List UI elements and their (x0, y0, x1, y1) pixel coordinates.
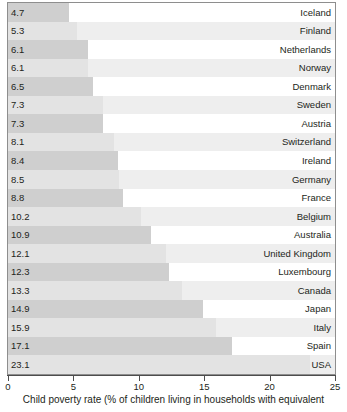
bar-germany (8, 170, 119, 189)
bar-category-label: Belgium (297, 212, 331, 222)
bar-value-label: 8.5 (11, 175, 24, 185)
bar-category-label: Japan (305, 304, 331, 314)
bar-category-label: Switzerland (282, 137, 331, 147)
bar-value-label: 15.9 (11, 323, 30, 333)
bar-france (8, 189, 123, 207)
x-tick-label: 20 (264, 382, 275, 392)
child-poverty-bar-chart: 4.7Iceland5.3Finland6.1Netherlands6.1Nor… (0, 0, 347, 412)
bar-category-label: Denmark (292, 82, 331, 92)
bar-value-label: 8.4 (11, 156, 24, 166)
bar-canada (8, 281, 182, 300)
x-tick-label: 10 (134, 382, 145, 392)
bar-value-label: 6.5 (11, 82, 24, 92)
bar-united-kingdom (8, 244, 166, 263)
table-row: 6.1Norway (8, 59, 335, 77)
table-row: 8.8France (8, 189, 335, 207)
x-axis-caption: Child poverty rate (% of children living… (0, 394, 347, 406)
bar-value-label: 10.9 (11, 230, 30, 240)
table-row: 14.9Japan (8, 300, 335, 318)
bar-category-label: Austria (301, 119, 331, 129)
table-row: 10.9Australia (8, 226, 335, 244)
bar-value-label: 14.9 (11, 304, 30, 314)
bar-category-label: Sweden (297, 100, 331, 110)
bar-category-label: United Kingdom (263, 249, 331, 259)
bar-value-label: 8.1 (11, 137, 24, 147)
bar-category-label: Australia (294, 230, 331, 240)
bar-value-label: 10.2 (11, 212, 30, 222)
bar-value-label: 6.1 (11, 45, 24, 55)
bar-category-label: Italy (314, 323, 331, 333)
bar-category-label: Canada (298, 286, 331, 296)
bar-category-label: USA (311, 360, 331, 370)
bar-value-label: 23.1 (11, 360, 30, 370)
bar-category-label: Netherlands (280, 45, 331, 55)
table-row: 4.7Iceland (8, 3, 335, 22)
table-row: 8.1Switzerland (8, 133, 335, 151)
table-row: 10.2Belgium (8, 207, 335, 226)
bar-value-label: 12.3 (11, 267, 30, 277)
bar-spain (8, 337, 232, 355)
table-row: 12.1United Kingdom (8, 244, 335, 263)
bar-category-label: Luxembourg (278, 267, 331, 277)
table-row: 13.3Canada (8, 281, 335, 300)
x-tick-label: 25 (330, 382, 341, 392)
bar-usa (8, 355, 310, 374)
x-tick-label: 0 (5, 382, 10, 392)
bar-category-label: Germany (292, 175, 331, 185)
table-row: 6.1Netherlands (8, 40, 335, 59)
x-tick-label: 15 (199, 382, 210, 392)
bar-category-label: Iceland (300, 8, 331, 18)
bar-category-label: Spain (307, 341, 331, 351)
bar-italy (8, 318, 216, 337)
bar-value-label: 7.3 (11, 119, 24, 129)
table-row: 7.3Austria (8, 114, 335, 133)
bar-value-label: 4.7 (11, 8, 24, 18)
x-axis: 0510152025 (7, 375, 336, 376)
bar-category-label: Norway (299, 63, 331, 73)
bar-value-label: 17.1 (11, 341, 30, 351)
x-axis-line (7, 375, 336, 376)
table-row: 17.1Spain (8, 337, 335, 355)
bar-value-label: 5.3 (11, 26, 24, 36)
bar-value-label: 6.1 (11, 63, 24, 73)
table-row: 6.5Denmark (8, 77, 335, 96)
table-row: 8.5Germany (8, 170, 335, 189)
bar-luxembourg (8, 263, 169, 281)
table-row: 15.9Italy (8, 318, 335, 337)
bar-ireland (8, 151, 118, 170)
bar-value-label: 8.8 (11, 193, 24, 203)
table-row: 12.3Luxembourg (8, 263, 335, 281)
bar-category-label: Finland (300, 26, 331, 36)
bar-japan (8, 300, 203, 318)
table-row: 7.3Sweden (8, 96, 335, 114)
bar-value-label: 13.3 (11, 286, 30, 296)
bar-value-label: 7.3 (11, 100, 24, 110)
bar-value-label: 12.1 (11, 249, 30, 259)
table-row: 5.3Finland (8, 22, 335, 40)
bar-category-label: France (301, 193, 331, 203)
table-row: 8.4Ireland (8, 151, 335, 170)
bar-category-label: Ireland (302, 156, 331, 166)
x-tick-label: 5 (71, 382, 76, 392)
plot-area: 4.7Iceland5.3Finland6.1Netherlands6.1Nor… (7, 2, 336, 375)
table-row: 23.1USA (8, 355, 335, 374)
